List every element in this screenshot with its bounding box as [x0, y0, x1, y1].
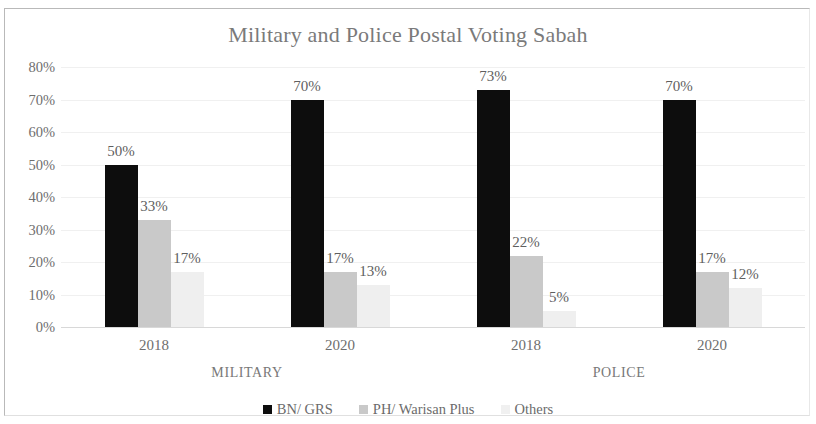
y-axis-tick-label: 40% [9, 190, 55, 205]
chart-legend: BN/ GRSPH/ Warisan PlusOthers [5, 401, 811, 418]
bar-value-label: 5% [535, 290, 584, 305]
legend-label: PH/ Warisan Plus [373, 401, 475, 418]
bar[interactable] [324, 272, 357, 327]
y-axis-tick-label: 70% [9, 93, 55, 108]
y-axis-tick-label: 30% [9, 223, 55, 238]
chart-title: Military and Police Postal Voting Sabah [5, 22, 811, 48]
legend-label: Others [515, 401, 554, 418]
bar[interactable] [543, 311, 576, 327]
y-axis: 80%70%60%50%40%30%20%10%0% [5, 67, 55, 327]
y-axis-tick-label: 80% [9, 60, 55, 75]
y-axis-tick-label: 10% [9, 288, 55, 303]
gridline [61, 327, 805, 328]
x-axis-group-label: MILITARY [61, 365, 433, 381]
category-axis: 2018202020182020MILITARYPOLICE [61, 331, 805, 393]
bar[interactable] [171, 272, 204, 327]
bar-value-label: 17% [688, 251, 737, 266]
bar[interactable] [105, 165, 138, 328]
bar[interactable] [663, 100, 696, 328]
bar-value-label: 12% [721, 267, 770, 282]
chart-frame: Military and Police Postal Voting Sabah … [4, 8, 810, 416]
bar-value-label: 50% [97, 144, 146, 159]
x-axis-year-label: 2018 [61, 337, 247, 354]
legend-entry[interactable]: Others [501, 401, 554, 418]
y-axis-tick-label: 20% [9, 255, 55, 270]
legend-swatch-icon [263, 405, 272, 414]
legend-entry[interactable]: BN/ GRS [263, 401, 333, 418]
y-axis-tick-label: 0% [9, 320, 55, 335]
plot-area: 50%33%17%70%17%13%73%22%5%70%17%12% [61, 67, 805, 327]
bar-value-label: 22% [502, 235, 551, 250]
y-axis-tick-label: 60% [9, 125, 55, 140]
x-axis-year-label: 2020 [247, 337, 433, 354]
bar-value-label: 33% [130, 199, 179, 214]
bar[interactable] [477, 90, 510, 327]
bar-value-label: 73% [469, 69, 518, 84]
bar-value-label: 17% [163, 251, 212, 266]
bar[interactable] [357, 285, 390, 327]
bar[interactable] [729, 288, 762, 327]
gridline [61, 67, 805, 68]
legend-label: BN/ GRS [277, 401, 333, 418]
y-axis-tick-label: 50% [9, 158, 55, 173]
legend-swatch-icon [501, 405, 510, 414]
legend-entry[interactable]: PH/ Warisan Plus [359, 401, 475, 418]
legend-swatch-icon [359, 405, 368, 414]
x-axis-year-label: 2020 [619, 337, 805, 354]
bar[interactable] [138, 220, 171, 327]
bar-value-label: 70% [655, 79, 704, 94]
bar-value-label: 70% [283, 79, 332, 94]
bar-value-label: 13% [349, 264, 398, 279]
x-axis-group-label: POLICE [433, 365, 805, 381]
bar[interactable] [291, 100, 324, 328]
x-axis-year-label: 2018 [433, 337, 619, 354]
